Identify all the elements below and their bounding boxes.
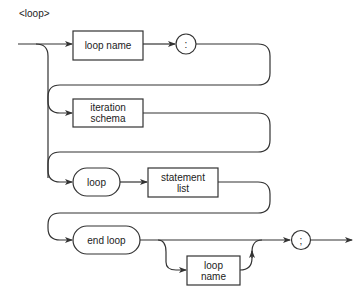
optional-branch-out xyxy=(240,240,262,270)
semicolon-label: ; xyxy=(291,230,311,250)
iteration-schema-line1: iteration xyxy=(90,102,126,113)
iteration-schema-line2: schema xyxy=(90,113,125,124)
loop-name-label: loop name xyxy=(73,31,143,60)
end-loop-label: end loop xyxy=(73,226,140,254)
optional-branch-in xyxy=(158,240,186,270)
statement-list-line1: statement xyxy=(161,172,205,183)
loop-keyword-label: loop xyxy=(73,168,120,196)
statement-list-line2: list xyxy=(177,183,189,194)
statement-list-label: statement list xyxy=(148,168,218,197)
loop-name-bottom-label: loop name xyxy=(187,256,240,285)
loop-name-bottom-line1: loop xyxy=(204,260,223,271)
bypass-vertical-line xyxy=(36,44,48,178)
colon-label: : xyxy=(176,34,196,54)
loop-name-bottom-line2: name xyxy=(201,271,226,282)
iteration-schema-label: iteration schema xyxy=(73,99,143,127)
